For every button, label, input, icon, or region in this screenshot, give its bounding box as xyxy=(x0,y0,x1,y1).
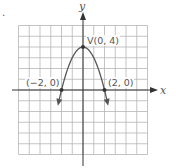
intercept-point-right xyxy=(103,88,107,92)
intercept-label-right: (2, 0) xyxy=(108,77,134,88)
vertex-point xyxy=(81,45,85,49)
y-axis-label: y xyxy=(78,0,86,13)
parabola-graph: . x y V(0, 4) (−2, 0) (2, 0) xyxy=(0,0,176,168)
x-axis-arrow-icon xyxy=(150,87,158,93)
x-axis-label: x xyxy=(160,84,167,97)
intercept-point-left xyxy=(60,88,64,92)
intercept-label-left: (−2, 0) xyxy=(26,77,60,88)
y-axis-arrow-icon xyxy=(80,12,86,20)
vertex-label: V(0, 4) xyxy=(87,35,119,46)
problem-marker: . xyxy=(2,7,5,18)
